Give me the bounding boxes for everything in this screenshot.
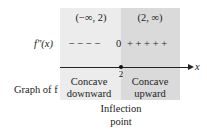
zero-sign: 0	[116, 38, 121, 50]
concavity-right-line2: upward	[134, 88, 166, 100]
point-label: 2	[119, 69, 124, 79]
graph-of-f-label: Graph of f	[14, 84, 58, 96]
inflection-annotation-line2: point	[110, 116, 132, 128]
inflection-annotation-line1: Inflection	[101, 103, 142, 115]
negative-signs: − − − −	[69, 38, 101, 50]
concavity-left-line1: Concave	[71, 76, 108, 88]
positive-signs: + + + + +	[127, 38, 167, 50]
axis-variable-label: x	[195, 61, 200, 73]
interval-label-right: (2, ∞)	[138, 12, 163, 24]
interval-label-left: (−∞, 2)	[76, 12, 107, 24]
concavity-right-line1: Concave	[132, 76, 169, 88]
concavity-left-line2: downward	[67, 88, 111, 100]
arrow-right-icon	[188, 64, 194, 70]
number-line	[60, 67, 190, 68]
second-derivative-label: f″(x)	[34, 38, 53, 50]
